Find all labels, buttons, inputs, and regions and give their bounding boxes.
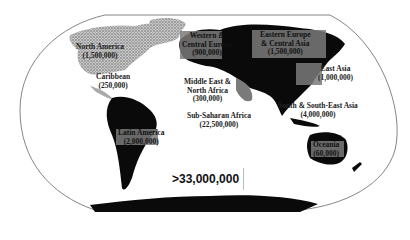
- total-count: >33,000,000: [172, 172, 239, 186]
- region-value: (1,000,000): [318, 74, 353, 83]
- label-latin-america: Latin America (2,000,000): [118, 129, 164, 146]
- label-sub-saharan-africa: Sub-Saharan Africa (22,500,000): [187, 112, 251, 129]
- label-caribbean: Caribbean (250,000): [96, 73, 130, 90]
- region-value: (250,000): [96, 82, 130, 91]
- region-value: (1,500,000): [76, 52, 124, 61]
- region-value: (1,500,000): [260, 48, 311, 57]
- region-value: (2,000,000): [118, 138, 164, 147]
- label-oceania: Oceania (60,000): [313, 141, 339, 158]
- region-value: (900,000): [182, 49, 232, 58]
- region-value: (60,000): [313, 150, 339, 159]
- region-value: (22,500,000): [187, 121, 251, 130]
- label-eastern-europe: Eastern Europe & Central Asia (1,500,000…: [260, 31, 311, 57]
- region-value: (4,000,000): [278, 111, 358, 120]
- label-western-europe: Western & Central Europe (900,000): [182, 32, 232, 58]
- label-south-east-asia: South & South-East Asia (4,000,000): [278, 102, 358, 119]
- label-middle-east: Middle East & North Africa (300,000): [184, 78, 231, 104]
- total-divider: [243, 168, 244, 190]
- region-value: (300,000): [184, 95, 231, 104]
- label-east-asia: East Asia (1,000,000): [318, 65, 353, 82]
- label-north-america: North America (1,500,000): [76, 43, 124, 60]
